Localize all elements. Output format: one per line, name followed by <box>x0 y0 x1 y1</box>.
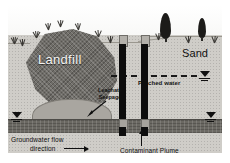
grass-tuft-icon <box>74 22 83 30</box>
water-table-symbol-left <box>10 112 23 122</box>
conifer-tree-icon <box>198 18 206 38</box>
diagram-scene: Landfill <box>8 5 222 153</box>
leachate-seepage-line1: Leachate <box>88 87 132 94</box>
contaminant-plume-label: Contaminant Plume <box>120 147 179 153</box>
landfill-label: Landfill <box>38 52 82 67</box>
grass-tuft-icon <box>32 30 41 38</box>
conifer-tree-icon <box>160 13 171 39</box>
monitoring-well-1-sump <box>119 127 126 136</box>
grass-tuft-icon <box>18 38 27 46</box>
grass-tuft-icon <box>56 19 65 27</box>
monitoring-well-2-shaft <box>141 44 148 120</box>
grass-tuft-icon <box>94 29 103 37</box>
seepage-arrow-icon <box>84 99 108 119</box>
grass-tuft-icon <box>106 35 115 43</box>
groundwater-flow-label-line2: direction <box>30 145 55 152</box>
grass-tuft-icon <box>184 35 193 43</box>
grass-tuft-icon <box>44 22 53 30</box>
cross-section-figure: Landfill <box>0 0 230 163</box>
sand-label: Sand <box>182 47 222 153</box>
contaminant-plume-arrow-icon <box>141 134 142 146</box>
groundwater-flow-arrow-icon <box>64 148 88 149</box>
monitoring-well-1-shaft <box>119 44 126 120</box>
grass-tuft-icon <box>210 35 219 43</box>
groundwater-flow-label-line1: Groundwater flow <box>11 136 64 143</box>
